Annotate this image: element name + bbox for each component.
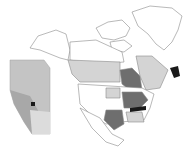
greenland <box>132 6 182 50</box>
arctic-islands <box>96 20 130 40</box>
alberta-inset <box>10 60 50 134</box>
alaska <box>30 30 70 60</box>
inset-marker <box>31 102 35 106</box>
plains-states <box>106 88 120 98</box>
north-america-map <box>0 0 189 164</box>
western-canada <box>68 60 120 82</box>
newfoundland <box>170 66 180 78</box>
southern-states <box>126 112 144 122</box>
